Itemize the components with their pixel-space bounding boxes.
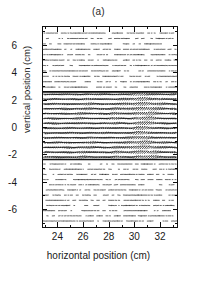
x-tick-mark — [134, 26, 135, 32]
y-tick-label: -4 — [0, 176, 17, 187]
y-tick-mark-minor — [175, 168, 178, 169]
y-tick-mark-minor — [42, 223, 45, 224]
x-tick-mark — [109, 222, 110, 228]
y-tick-mark — [42, 45, 47, 46]
y-axis-label: vertical position (cm) — [21, 10, 32, 170]
y-tick-mark-minor — [42, 141, 45, 142]
y-tick-mark — [42, 72, 47, 73]
x-tick-label: 24 — [44, 231, 70, 242]
y-tick-mark — [42, 209, 47, 210]
plot-frame — [42, 26, 178, 228]
y-tick-label: 6 — [0, 40, 17, 51]
x-tick-mark-minor — [45, 26, 46, 29]
y-tick-mark-minor — [175, 195, 178, 196]
y-tick-mark — [173, 182, 178, 183]
y-tick-mark-minor — [42, 168, 45, 169]
x-tick-mark-minor — [147, 26, 148, 29]
y-tick-mark — [173, 72, 178, 73]
y-tick-mark-minor — [175, 59, 178, 60]
vector-field-plot — [43, 27, 177, 227]
y-tick-label: -2 — [0, 149, 17, 160]
y-tick-mark-minor — [175, 141, 178, 142]
x-tick-mark — [83, 222, 84, 228]
x-tick-label: 28 — [96, 231, 122, 242]
y-tick-label: 4 — [0, 67, 17, 78]
x-tick-label: 30 — [121, 231, 147, 242]
y-tick-mark-minor — [42, 31, 45, 32]
x-tick-mark-minor — [122, 225, 123, 228]
y-tick-mark-minor — [42, 59, 45, 60]
y-tick-mark — [42, 182, 47, 183]
y-tick-mark — [173, 100, 178, 101]
x-tick-mark-minor — [173, 26, 174, 29]
x-tick-mark-minor — [147, 225, 148, 228]
x-tick-mark — [160, 26, 161, 32]
y-tick-mark-minor — [42, 195, 45, 196]
y-tick-mark — [42, 154, 47, 155]
x-axis-label: horizontal position (cm) — [0, 250, 197, 261]
y-tick-label: 2 — [0, 94, 17, 105]
y-tick-mark — [173, 154, 178, 155]
y-tick-mark-minor — [42, 113, 45, 114]
figure-panel: (a) vertical position (cm) horizontal po… — [0, 0, 197, 283]
x-tick-mark — [57, 222, 58, 228]
x-tick-mark — [134, 222, 135, 228]
y-tick-mark-minor — [175, 223, 178, 224]
x-tick-mark — [109, 26, 110, 32]
x-tick-label: 32 — [147, 231, 173, 242]
y-tick-mark-minor — [175, 113, 178, 114]
x-tick-mark-minor — [70, 26, 71, 29]
y-tick-mark-minor — [175, 86, 178, 87]
y-tick-mark-minor — [175, 31, 178, 32]
x-tick-label: 26 — [70, 231, 96, 242]
x-tick-mark — [57, 26, 58, 32]
y-tick-mark — [173, 209, 178, 210]
x-tick-mark — [160, 222, 161, 228]
x-tick-mark-minor — [173, 225, 174, 228]
x-tick-mark-minor — [45, 225, 46, 228]
y-tick-mark — [42, 100, 47, 101]
y-tick-mark — [173, 45, 178, 46]
y-tick-mark — [173, 127, 178, 128]
y-tick-mark — [42, 127, 47, 128]
y-tick-mark-minor — [42, 86, 45, 87]
x-tick-mark-minor — [96, 26, 97, 29]
x-tick-mark-minor — [96, 225, 97, 228]
y-tick-label: -6 — [0, 203, 17, 214]
y-tick-label: 0 — [0, 122, 17, 133]
x-tick-mark — [83, 26, 84, 32]
x-tick-mark-minor — [70, 225, 71, 228]
x-tick-mark-minor — [122, 26, 123, 29]
